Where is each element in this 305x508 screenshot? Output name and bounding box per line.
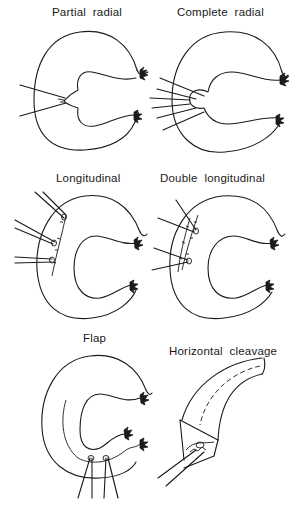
meniscus-longitudinal (15, 192, 147, 319)
meniscus-partial-radial (20, 31, 148, 150)
meniscus-double-longitudinal (152, 196, 285, 319)
meniscus-horizontal-cleavage (158, 358, 265, 486)
meniscus-complete-radial (150, 32, 289, 152)
meniscus-diagram (0, 0, 305, 508)
meniscus-flap (42, 355, 152, 498)
